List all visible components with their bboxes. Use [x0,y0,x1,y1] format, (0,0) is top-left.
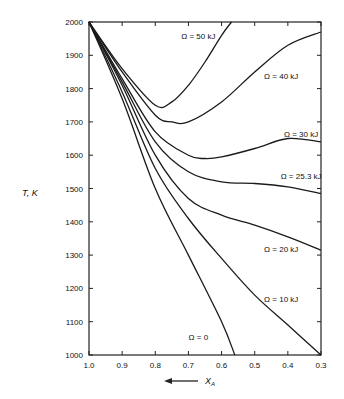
y-tick-label: 2000 [65,18,83,27]
y-tick-label: 1600 [65,151,83,160]
y-axis-title: T, K [22,188,39,198]
curve-label: Ω = 0 [189,333,209,342]
x-tick-label: 0.4 [282,361,294,370]
x-tick-label: 0.3 [315,361,327,370]
phase-diagram-chart: 2000190018001700160015001400130012001100… [0,0,344,399]
x-axis-title: XA [204,376,215,387]
x-tick-label: 0.8 [150,361,162,370]
x-tick-label: 0.5 [249,361,261,370]
y-tick-label: 1100 [66,318,84,327]
curve [89,22,321,194]
x-tick-label: 1.0 [83,361,95,370]
curve-label: Ω = 20 kJ [264,245,298,254]
curve-label: Ω = 40 kJ [264,72,298,81]
y-tick-label: 1800 [65,85,83,94]
y-tick-label: 1300 [65,251,83,260]
y-tick-label: 1400 [65,218,83,227]
curve-label: Ω = 50 kJ [181,32,215,41]
x-tick-label: 0.7 [183,361,195,370]
x-axis-title-group: XA [164,376,215,387]
y-tick-label: 1000 [65,351,83,360]
curve-labels: Ω = 50 kJΩ = 40 kJΩ = 30 kJΩ = 25.3 kJΩ … [181,32,321,342]
curve-label: Ω = 10 kJ [264,295,298,304]
curve-label: Ω = 25.3 kJ [281,172,322,181]
curve-label: Ω = 30 kJ [284,130,318,139]
x-tick-label: 0.9 [117,361,129,370]
x-tick-label: 0.6 [216,361,228,370]
y-tick-label: 1900 [65,51,83,60]
y-tick-label: 1500 [65,185,83,194]
y-tick-label: 1700 [65,118,83,127]
curve [89,22,235,355]
y-tick-label: 1200 [65,284,83,293]
arrowhead-icon [164,378,172,384]
y-axis: 2000190018001700160015001400130012001100… [65,18,321,360]
